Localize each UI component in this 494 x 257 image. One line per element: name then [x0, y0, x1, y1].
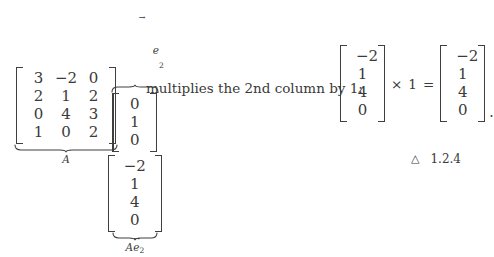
e2-and-ae2-group: → e 2 0 1 0 −2 1 4 0 [106, 8, 164, 257]
rhs-equation: −2 1 4 0 × 1 = −2 1 4 0 . [340, 45, 494, 122]
vector-ae2-left-bracket [108, 155, 115, 232]
rhs-left-vector-left-bracket [340, 45, 347, 122]
triangle-marker-icon: △ [411, 152, 419, 166]
matrix-a-cell: 2 [82, 124, 105, 141]
rhs-result-vector-left-bracket [440, 45, 447, 122]
vector-ae2-label: A→e2 [126, 241, 145, 257]
rhs-result-vector-cells: −2 1 4 0 [447, 45, 478, 122]
matrix-a-cell: 0 [82, 70, 105, 87]
vector-ae2-cells: −2 1 4 0 [115, 155, 155, 232]
vector-e2: 0 1 0 [112, 93, 157, 152]
matrix-a-cell: 1 [50, 88, 82, 105]
rhs-result-vector-cell: −2 [451, 48, 474, 65]
matrix-a-cells: 3 −2 0 2 1 2 0 4 3 1 0 2 [23, 67, 109, 144]
rhs-left-vector-cell: 0 [351, 102, 374, 119]
rhs-left-vector-cells: −2 1 4 0 [347, 45, 378, 122]
vector-e2-cell: 0 [123, 132, 146, 149]
vector-ae2-cell: 0 [119, 212, 151, 229]
rhs-result-vector-right-bracket [478, 45, 485, 122]
rhs-left-vector-cell: −2 [351, 48, 374, 65]
vector-arrow-icon: → [133, 236, 138, 242]
vector-e2-label-base: e [153, 44, 159, 56]
vector-ae2-label-subscript: 2 [139, 246, 144, 255]
matrix-a-left-bracket [16, 67, 23, 144]
scalar-value: 1 [408, 76, 417, 92]
matrix-a-label: A [62, 153, 70, 165]
rhs-left-vector: −2 1 4 0 [340, 45, 385, 122]
vector-e2-cell: 1 [123, 114, 146, 131]
footer: △ 1.2.4 [411, 152, 461, 166]
vector-arrow-icon: → [126, 15, 158, 21]
vector-ae2-group: −2 1 4 0 A→e2 [108, 155, 162, 257]
matrix-a-cell: 3 [82, 106, 105, 123]
vector-e2-label-symbol: → e [126, 20, 159, 68]
vector-e2-left-bracket [112, 93, 119, 152]
matrix-a: 3 −2 0 2 1 2 0 4 3 1 0 2 [16, 67, 116, 144]
multiplication-operator: × [385, 76, 408, 92]
vector-e2-cell: 0 [123, 96, 146, 113]
vector-ae2-label-prefix: A [126, 241, 134, 253]
equals-operator: = [417, 76, 440, 92]
vector-ae2-cell: −2 [119, 158, 151, 175]
rhs-result-vector-cell: 0 [451, 102, 474, 119]
matrix-a-cell: 3 [27, 70, 50, 87]
rhs-result-vector-cell: 4 [451, 84, 474, 101]
rhs-left-vector-cell: 4 [351, 84, 374, 101]
sentence-terminator: . [485, 104, 493, 122]
vector-ae2-cell: 1 [119, 176, 151, 193]
matrix-a-cell: 0 [50, 124, 82, 141]
rhs-result-vector: −2 1 4 0 [440, 45, 485, 122]
matrix-a-cell: 1 [27, 124, 50, 141]
vector-ae2-label-symbol: →e [133, 241, 139, 253]
underbrace-icon [14, 144, 118, 153]
vector-e2-label: → e 2 [106, 8, 164, 84]
vector-ae2: −2 1 4 0 [108, 155, 162, 232]
vector-ae2-cell: 4 [119, 194, 151, 211]
rhs-left-vector-right-bracket [378, 45, 385, 122]
matrix-a-cell: 2 [82, 88, 105, 105]
vector-e2-label-subscript: 2 [159, 61, 164, 70]
matrix-a-cell: −2 [50, 70, 82, 87]
matrix-a-cell: 0 [27, 106, 50, 123]
matrix-a-cell: 2 [27, 88, 50, 105]
vector-ae2-right-bracket [155, 155, 162, 232]
matrix-a-cell: 4 [50, 106, 82, 123]
rhs-left-vector-cell: 1 [351, 66, 374, 83]
rhs-result-vector-cell: 1 [451, 66, 474, 83]
example-number: 1.2.4 [430, 152, 461, 166]
vector-e2-right-bracket [150, 93, 157, 152]
vector-e2-cells: 0 1 0 [119, 93, 150, 152]
matrix-a-group: 3 −2 0 2 1 2 0 4 3 1 0 2 A [14, 67, 118, 165]
description-text: multiplies the 2nd column by 1: [146, 80, 363, 96]
